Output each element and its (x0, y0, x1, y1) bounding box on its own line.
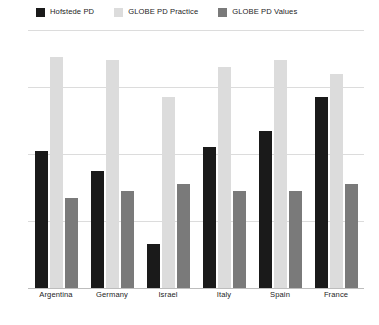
bar (345, 184, 358, 288)
x-axis-label-israel: Israel (140, 290, 196, 299)
x-axis-labels: ArgentinaGermanyIsraelItalySpainFrance (28, 290, 364, 299)
bar-chart: Hofstede PD GLOBE PD Practice GLOBE PD V… (0, 0, 379, 325)
bar (233, 191, 246, 288)
x-axis-label-france: France (308, 290, 364, 299)
bar (274, 60, 287, 288)
legend-swatch-icon-globe-pd-values (218, 8, 227, 17)
legend-swatch-icon-globe-pd-practice (114, 8, 123, 17)
bar (218, 67, 231, 288)
bar (50, 57, 63, 288)
legend-swatch-icon-hofstede-pd (36, 8, 45, 17)
bar-group (140, 30, 196, 288)
bar-group (252, 30, 308, 288)
x-axis-label-germany: Germany (84, 290, 140, 299)
bar (315, 97, 328, 288)
x-axis-label-argentina: Argentina (28, 290, 84, 299)
bar (106, 60, 119, 288)
legend-label-hofstede-pd: Hofstede PD (50, 8, 94, 16)
bar-group (308, 30, 364, 288)
bar-group (196, 30, 252, 288)
legend-item-hofstede-pd: Hofstede PD (36, 8, 94, 17)
bar (289, 191, 302, 288)
x-axis-label-spain: Spain (252, 290, 308, 299)
legend-label-globe-pd-practice: GLOBE PD Practice (128, 8, 198, 16)
bar-group (84, 30, 140, 288)
bar (91, 171, 104, 288)
bar (121, 191, 134, 288)
bar (177, 184, 190, 288)
legend-item-globe-pd-practice: GLOBE PD Practice (114, 8, 198, 17)
legend-label-globe-pd-values: GLOBE PD Values (232, 8, 297, 16)
bar-groups (28, 30, 364, 288)
x-axis-line (28, 288, 364, 289)
legend-item-globe-pd-values: GLOBE PD Values (218, 8, 297, 17)
bar (259, 131, 272, 288)
bar (147, 244, 160, 288)
bar (35, 151, 48, 288)
chart-legend: Hofstede PD GLOBE PD Practice GLOBE PD V… (0, 0, 379, 24)
bar (203, 147, 216, 288)
bar (162, 97, 175, 288)
bar (65, 198, 78, 288)
bar-group (28, 30, 84, 288)
x-axis-label-italy: Italy (196, 290, 252, 299)
bar (330, 74, 343, 288)
